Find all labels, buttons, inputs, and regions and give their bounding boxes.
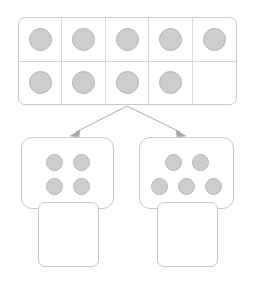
right-part-dot-row xyxy=(165,154,209,171)
ten-frame-cell[interactable] xyxy=(106,18,149,61)
left-part-dot-row xyxy=(46,154,90,171)
counter-circle-icon xyxy=(46,154,63,171)
counter-circle-icon xyxy=(192,154,209,171)
ten-frame-cell-empty[interactable] xyxy=(193,62,236,105)
counter-circle-icon xyxy=(205,178,222,195)
arrow-to-left-part xyxy=(76,106,127,132)
counter-circle-icon xyxy=(29,28,52,51)
ten-frame-cell[interactable] xyxy=(19,18,62,61)
ten-frame-cell[interactable] xyxy=(62,18,105,61)
arrow-to-right-part xyxy=(127,106,180,132)
counter-circle-icon xyxy=(73,154,90,171)
counter-circle-icon xyxy=(46,178,63,195)
counter-circle-icon xyxy=(159,28,182,51)
counter-circle-icon xyxy=(116,28,139,51)
ten-frame xyxy=(18,17,237,105)
counter-circle-icon xyxy=(72,28,95,51)
counter-circle-icon xyxy=(116,71,139,94)
left-answer-box[interactable] xyxy=(38,202,99,267)
arrow-head-right-icon xyxy=(176,130,186,137)
counter-circle-icon xyxy=(29,71,52,94)
counter-circle-icon xyxy=(151,178,168,195)
ten-frame-cell[interactable] xyxy=(62,62,105,105)
counter-circle-icon xyxy=(73,178,90,195)
worksheet-canvas xyxy=(0,0,253,282)
right-part-dot-row xyxy=(151,178,222,195)
counter-circle-icon xyxy=(178,178,195,195)
counter-circle-icon xyxy=(165,154,182,171)
ten-frame-row-top xyxy=(19,18,236,62)
left-part-counters xyxy=(22,138,113,208)
right-part-box[interactable] xyxy=(139,137,234,209)
ten-frame-cell[interactable] xyxy=(149,62,192,105)
ten-frame-cell[interactable] xyxy=(19,62,62,105)
right-answer-box[interactable] xyxy=(157,202,218,267)
ten-frame-cell[interactable] xyxy=(193,18,236,61)
counter-circle-icon xyxy=(159,71,182,94)
ten-frame-row-bottom xyxy=(19,62,236,105)
arrow-head-left-icon xyxy=(70,130,80,137)
counter-circle-icon xyxy=(203,28,226,51)
ten-frame-cell[interactable] xyxy=(106,62,149,105)
right-part-counters xyxy=(140,138,233,208)
left-part-box[interactable] xyxy=(21,137,114,209)
ten-frame-cell[interactable] xyxy=(149,18,192,61)
left-part-dot-row xyxy=(46,178,90,195)
counter-circle-icon xyxy=(72,71,95,94)
